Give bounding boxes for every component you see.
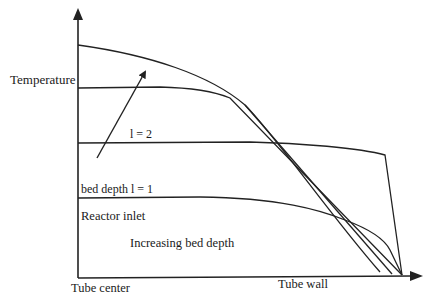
- label-l2: l = 2: [130, 127, 152, 141]
- y-axis-label: Temperature: [10, 72, 76, 87]
- x-axis-start-label: Tube center: [71, 281, 131, 295]
- increasing-depth-arrow: [97, 72, 145, 158]
- label-reactor-inlet: Reactor inlet: [81, 209, 146, 223]
- x-axis-arrow-icon: [410, 271, 423, 281]
- label-bed-depth-l1: bed depth l = 1: [81, 182, 153, 196]
- temperature-profile-diagram: Temperature l = 2 bed depth l = 1 Reacto…: [0, 0, 431, 300]
- y-axis-arrow-icon: [73, 8, 83, 20]
- x-axis-end-label: Tube wall: [278, 277, 328, 291]
- label-increasing-bed-depth: Increasing bed depth: [130, 236, 235, 250]
- x-axis: [78, 271, 423, 281]
- curve-profile-3: [78, 87, 402, 275]
